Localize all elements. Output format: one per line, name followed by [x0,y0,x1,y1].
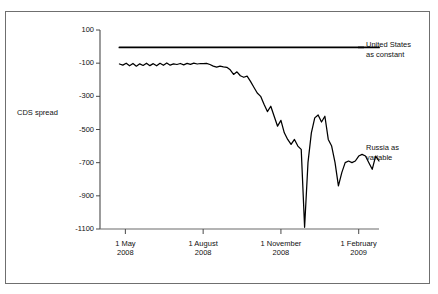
x-tick-label-line2: 2008 [195,248,212,257]
y-tick-label: -300 [79,91,94,100]
y-tick-label: -1100 [75,224,94,233]
x-tick-label: 1 August2008 [158,239,248,257]
x-tick-label-line1: 1 November [260,239,301,248]
series-label-ru-line1: Russia as [366,143,399,152]
series-label-us-line2: as constant [366,50,404,59]
chart-figure: CDS spread 100-100-300-500-700-900-1100 … [0,0,438,294]
y-tick-label: -700 [79,158,94,167]
x-tick-label: 1 May2008 [80,239,170,257]
x-tick-label-line2: 2008 [117,248,134,257]
data-series-group [119,47,379,227]
y-tick-label: -100 [79,58,94,67]
x-tick-marks [125,229,358,234]
x-tick-label-line1: 1 August [189,239,218,248]
y-tick-label: 100 [81,25,94,34]
y-axis-title: CDS spread [17,108,58,117]
series-label-russia: Russia as variable [366,143,399,163]
series-label-united-states: United States as constant [366,40,411,60]
x-tick-label-line1: 1 May [115,239,135,248]
x-tick-label-line2: 2009 [350,248,367,257]
x-tick-label: 1 November2008 [236,239,326,257]
y-tick-label: -500 [79,125,94,134]
x-tick-label: 1 February2009 [314,239,404,257]
series-label-ru-line2: variable [366,153,392,162]
series-label-us-line1: United States [366,40,411,49]
y-tick-label: -900 [79,191,94,200]
y-tick-marks [96,30,100,229]
series-line-russia [119,63,379,227]
x-tick-label-line1: 1 February [341,239,377,248]
x-tick-label-line2: 2008 [273,248,290,257]
axes [100,30,379,229]
